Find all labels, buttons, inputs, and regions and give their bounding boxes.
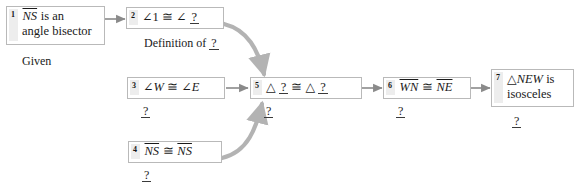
congruent-symbol-4: ≅ [163,144,174,158]
angle-symbol-2a: ∠ [142,10,152,24]
step-box-1[interactable]: 1 NS is anangle bisector [6,6,105,45]
reason-step-1: Given [22,54,51,68]
blank-reason-step2[interactable]: ? [209,37,218,50]
curved-arrow-step2-to-step5 [224,24,264,74]
step-statement-3: ∠W ≅ ∠E [139,80,199,95]
step-box-3[interactable]: 3 ∠W ≅ ∠E [127,77,225,99]
triangle-symbol-5a: △ [266,80,276,94]
segment-ns-label: NS [22,9,38,23]
blank-reason-step7[interactable]: ? [512,115,521,128]
step-number-7: 7 [494,72,503,103]
step3-right-operand: E [192,80,200,94]
step-statement-7: △NEW isisosceles [503,72,554,102]
reason-step2-prefix: Definition of [144,36,209,50]
step-statement-2: ∠1 ≅ ∠ ? [138,10,199,25]
step4-right-segment: NS [177,144,193,158]
flowchart-proof-diagram: 1 NS is anangle bisector Given 2 ∠1 ≅ ∠ … [0,0,580,182]
step4-left-segment: NS [144,144,160,158]
reason-step-4: ? [142,168,151,182]
step-number-4: 4 [131,144,140,159]
angle-symbol-3a: ∠ [143,80,153,94]
blank-step2-right[interactable]: ? [190,11,200,24]
step7-text-suffix: is [543,72,554,86]
step-number-6: 6 [386,80,395,95]
reason-step-2: Definition of ? [144,36,219,50]
blank-reason-step5[interactable]: ? [264,105,273,118]
triangle-symbol-5b: △ [306,80,316,94]
angle-symbol-3b: ∠ [181,80,191,94]
congruent-symbol-6: ≅ [422,80,433,94]
step-number-3: 3 [130,80,139,95]
congruent-symbol-5: ≅ [291,80,302,94]
reason-step-7: ? [512,114,521,128]
step-statement-1: NS is anangle bisector [18,9,92,39]
blank-step5-right[interactable]: ? [318,81,328,94]
step7-triangle-name: NEW [517,72,543,86]
step6-right-segment: NE [436,80,453,94]
reason-step-5: ? [264,104,273,118]
blank-reason-step3[interactable]: ? [141,105,150,118]
angle-symbol-2b: ∠ [176,10,186,24]
step-box-4[interactable]: 4 NS ≅ NS [128,141,222,163]
step-statement-6: WN ≅ NE [395,80,453,95]
congruent-symbol-2: ≅ [162,10,173,24]
blank-step5-left[interactable]: ? [279,81,289,94]
step-box-6[interactable]: 6 WN ≅ NE [383,77,471,99]
blank-reason-step4[interactable]: ? [142,169,151,182]
step7-text-line2: isosceles [507,87,551,101]
step-box-2[interactable]: 2 ∠1 ≅ ∠ ? [126,7,224,29]
step1-text-line2: angle bisector [22,24,92,38]
step2-left-operand: 1 [152,10,158,24]
step-box-5[interactable]: 5 △ ? ≅ △ ? [250,77,362,99]
reason-step-6: ? [396,104,405,118]
step3-left-operand: W [153,80,163,94]
step-box-7[interactable]: 7 △NEW isisosceles [491,69,574,107]
congruent-symbol-3: ≅ [167,80,178,94]
triangle-symbol-7: △ [507,72,517,86]
curved-arrow-step4-to-step5 [222,104,262,158]
step-number-5: 5 [253,80,262,95]
step1-text-suffix: is an [38,9,64,23]
reason-step-3: ? [141,104,150,118]
step6-left-segment: WN [399,80,419,94]
step-statement-4: NS ≅ NS [140,144,192,159]
step-statement-5: △ ? ≅ △ ? [262,80,328,95]
step-number-1: 1 [9,9,18,41]
blank-reason-step6[interactable]: ? [396,105,405,118]
step-number-2: 2 [129,10,138,25]
